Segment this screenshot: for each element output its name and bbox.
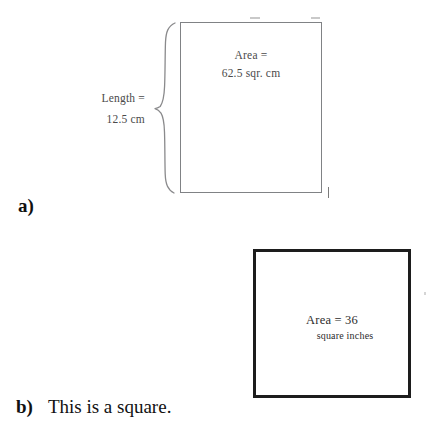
scan-artifact-mark — [311, 17, 320, 19]
worksheet-page: Length = 12.5 cm Area = 62.5 sqr. cm a) … — [0, 0, 433, 431]
square-area-label: Area = 36 square inches — [253, 312, 411, 344]
corner-tick-mark — [328, 187, 329, 198]
length-label-line2: 12.5 cm — [60, 109, 145, 130]
scan-artifact-speck — [424, 292, 426, 295]
rectangle-area-label: Area = 62.5 sqr. cm — [180, 46, 322, 82]
length-label-line1: Length = — [60, 88, 145, 109]
item-marker-b-text: b) — [16, 396, 33, 417]
item-marker-a-text: a) — [18, 195, 34, 216]
rectangle-area-line1: Area = — [180, 46, 322, 64]
square-area-line1: Area = 36 — [253, 312, 411, 328]
item-marker-a: a) — [18, 195, 34, 217]
scan-artifact-mark — [250, 17, 260, 19]
item-marker-b: b)This is a square. — [16, 396, 171, 418]
square-area-line2: square inches — [279, 328, 411, 344]
curly-brace-icon — [152, 20, 178, 196]
square-caption: This is a square. — [48, 396, 171, 417]
rectangle-area-line2: 62.5 sqr. cm — [180, 64, 322, 82]
length-label: Length = 12.5 cm — [60, 88, 145, 130]
